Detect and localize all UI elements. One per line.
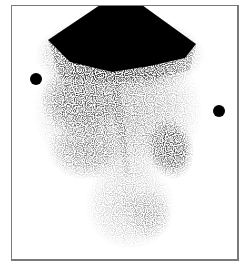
right-marker — [213, 105, 225, 117]
left-marker — [30, 73, 42, 85]
scintigraphy-image — [0, 0, 249, 267]
top-intense-uptake — [48, 5, 196, 82]
